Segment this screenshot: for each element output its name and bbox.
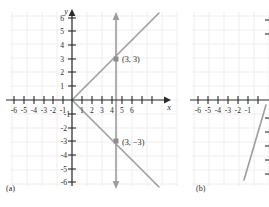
x-tick-label-1: 1 <box>80 106 84 115</box>
x-tick-label-5: 5 <box>120 106 124 115</box>
panel-a: -6 -5 -4 -3 -2 -1 1 2 3 4 5 6 6 5 4 3 2 … <box>0 0 180 207</box>
y-tick-label--4: -4 <box>61 151 68 160</box>
axis-arrowheads-a <box>69 9 171 103</box>
figure-two-panel-graph: -6 -5 -4 -3 -2 -1 1 2 3 4 5 6 6 5 4 3 2 … <box>0 0 269 207</box>
y-tick-label--2: -2 <box>61 124 68 133</box>
x-tick-label-2: 2 <box>90 106 94 115</box>
arrowhead-down <box>113 181 120 189</box>
panel-a-caption: (a) <box>6 184 15 193</box>
point-label-3-3: (3, 3) <box>122 55 140 64</box>
x-axis-label: x <box>166 103 171 112</box>
x-tick-label--6: -6 <box>11 106 18 115</box>
x-tick-label-3: 3 <box>100 106 104 115</box>
grid-lines-a <box>10 12 178 186</box>
y-tick-label--3: -3 <box>61 137 68 146</box>
x-tick-label-4: 4 <box>110 106 114 115</box>
x-tick-label-6: 6 <box>130 106 134 115</box>
y-tick-label--6: -6 <box>61 178 68 187</box>
x-tick-label-b--1: -1 <box>245 106 252 115</box>
x-tick-label-b--6: -6 <box>195 106 202 115</box>
panel-b: -6 -5 -4 -3 -2 -1 (b) <box>180 0 269 207</box>
y-tick-label--5: -5 <box>61 165 68 174</box>
y-tick-label-2: 2 <box>60 68 64 77</box>
data-point-3-3 <box>114 57 119 62</box>
y-tick-marks-b <box>265 20 269 174</box>
coordinate-plane-a: -6 -5 -4 -3 -2 -1 1 2 3 4 5 6 6 5 4 3 2 … <box>0 0 180 207</box>
x-tick-label-b--3: -3 <box>225 106 232 115</box>
coordinate-plane-b: -6 -5 -4 -3 -2 -1 <box>180 0 269 207</box>
y-tick-label-1: 1 <box>60 82 64 91</box>
x-tick-label--4: -4 <box>31 106 38 115</box>
panel-b-caption: (b) <box>196 184 205 193</box>
x-tick-label-b--5: -5 <box>205 106 212 115</box>
x-tick-label--3: -3 <box>41 106 48 115</box>
y-tick-label--1: -1 <box>64 110 71 119</box>
y-tick-label-4: 4 <box>60 41 64 50</box>
x-tick-label-b--2: -2 <box>235 106 242 115</box>
x-tick-label--2: -2 <box>50 106 57 115</box>
data-point-3--3 <box>114 139 119 144</box>
y-axis-arrowhead <box>69 9 76 16</box>
y-axis-label: y <box>63 7 68 16</box>
y-tick-label-5: 5 <box>60 27 64 36</box>
x-tick-label-b--4: -4 <box>215 106 222 115</box>
point-label-3--3: (3, −3) <box>122 138 145 147</box>
y-tick-label-3: 3 <box>60 55 64 64</box>
x-tick-label--5: -5 <box>21 106 28 115</box>
